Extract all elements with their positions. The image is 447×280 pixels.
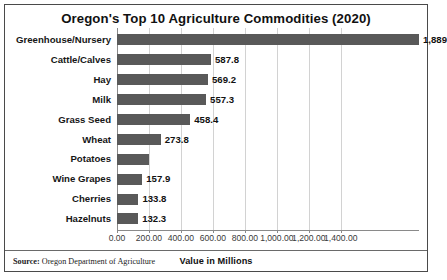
x-tick-label: 600.00 [200, 234, 226, 243]
bar-track: 1,889 [117, 31, 447, 49]
bar[interactable] [117, 114, 190, 125]
bar-row: Greenhouse/Nursery1,889 [5, 31, 419, 49]
x-axis: 0.00200.00400.00600.00800.001,000.001,20… [117, 230, 419, 250]
bar-track: 569.2 [117, 71, 419, 89]
bar[interactable] [117, 94, 206, 105]
bar-track: 458.4 [117, 111, 419, 129]
bar[interactable] [117, 213, 138, 224]
bar[interactable] [117, 154, 149, 165]
bar-row: Wine Grapes157.9 [5, 170, 419, 188]
bar-value-label: 1,889 [423, 35, 447, 45]
bar-track: 133.8 [117, 190, 419, 208]
bar-value-label: 273.8 [165, 135, 189, 145]
bar-value-label: 133.8 [142, 194, 166, 204]
category-label: Cattle/Calves [5, 55, 117, 65]
bar-row: Potatoes [5, 150, 419, 168]
x-tick-label: 200.00 [136, 234, 162, 243]
bar-value-label: 157.9 [146, 174, 170, 184]
category-label: Greenhouse/Nursery [5, 35, 117, 45]
bar-value-label: 557.3 [210, 95, 234, 105]
bar-track [117, 150, 419, 168]
chart-title: Oregon's Top 10 Agriculture Commodities … [5, 11, 427, 26]
bar[interactable] [117, 34, 419, 45]
bars-container: Greenhouse/Nursery1,889Cattle/Calves587.… [5, 28, 419, 230]
category-label: Potatoes [5, 154, 117, 164]
category-label: Milk [5, 95, 117, 105]
bar[interactable] [117, 174, 142, 185]
category-label: Cherries [5, 194, 117, 204]
category-label: Hazelnuts [5, 214, 117, 224]
bar-row: Wheat273.8 [5, 130, 419, 148]
bar-row: Cherries133.8 [5, 190, 419, 208]
plot-area: Greenhouse/Nursery1,889Cattle/Calves587.… [5, 28, 427, 250]
bar-track: 132.3 [117, 210, 419, 228]
x-tick-label: 400.00 [168, 234, 194, 243]
bar[interactable] [117, 194, 138, 205]
bar-track: 157.9 [117, 170, 419, 188]
x-axis-title: Value in Millions [5, 256, 427, 266]
chart-footer: Source: Oregon Department of Agriculture… [5, 250, 427, 271]
bar[interactable] [117, 134, 161, 145]
x-tick-label: 0.00 [109, 234, 126, 243]
x-tick-label: 800.00 [232, 234, 258, 243]
bar-row: Milk557.3 [5, 91, 419, 109]
bar-row: Cattle/Calves587.8 [5, 51, 419, 69]
category-label: Wine Grapes [5, 174, 117, 184]
chart-card: Oregon's Top 10 Agriculture Commodities … [4, 4, 428, 272]
category-label: Grass Seed [5, 115, 117, 125]
bar-value-label: 587.8 [215, 55, 239, 65]
bar-track: 557.3 [117, 91, 419, 109]
bar-row: Hazelnuts132.3 [5, 210, 419, 228]
bar-row: Grass Seed458.4 [5, 111, 419, 129]
bar-value-label: 132.3 [142, 214, 166, 224]
bar[interactable] [117, 74, 208, 85]
bar-value-label: 569.2 [212, 75, 236, 85]
category-label: Wheat [5, 135, 117, 145]
bar[interactable] [117, 54, 211, 65]
x-tick-label: 1,200.00 [292, 234, 325, 243]
bar-value-label: 458.4 [194, 115, 218, 125]
bar-track: 587.8 [117, 51, 419, 69]
x-tick-label: 1,000.00 [260, 234, 293, 243]
x-tick-label: 1,400.00 [324, 234, 357, 243]
category-label: Hay [5, 75, 117, 85]
bar-row: Hay569.2 [5, 71, 419, 89]
bar-track: 273.8 [117, 130, 419, 148]
x-axis-line [117, 230, 419, 231]
